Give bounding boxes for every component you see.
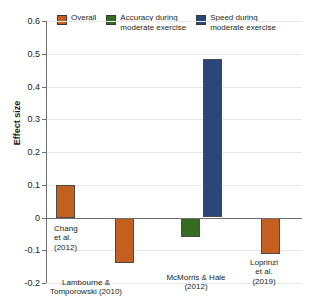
bar [56,185,75,218]
gridline [46,54,302,55]
y-tick-label: 0.2 [27,147,40,157]
y-axis-spine [46,21,47,283]
y-tick-mark [42,119,46,120]
plot-area: 0.60.50.40.30.20.10-0.1-0.2 Chang et al.… [46,21,302,283]
gridline [46,185,302,186]
y-tick-label: 0.1 [27,180,40,190]
bar-category-label: McMorris & Hale (2012) [146,273,246,292]
gridline [46,152,302,153]
bar-category-label: Loprinzi et al. (2019) [234,258,294,287]
y-tick-mark [42,54,46,55]
y-axis-title: Effect size [12,78,22,168]
bar [181,218,200,238]
bar-category-label: Chang et al. (2012) [54,224,102,253]
bar [261,218,280,254]
y-tick-mark [42,21,46,22]
bar [115,218,134,264]
y-tick-mark [42,152,46,153]
effect-size-bar-chart: Overall Accuracy during moderate exercis… [0,0,309,297]
gridline [46,21,302,22]
gridline [46,87,302,88]
y-tick-mark [42,218,46,219]
y-tick-mark [42,185,46,186]
y-tick-label: 0.5 [27,49,40,59]
y-tick-label: 0.4 [27,82,40,92]
y-tick-label: -0.1 [24,245,40,255]
y-tick-label: 0.3 [27,114,40,124]
y-tick-label: 0.6 [27,16,40,26]
bar [203,59,222,218]
y-tick-label: -0.2 [24,278,40,288]
y-tick-label: 0 [35,213,40,223]
gridline [46,119,302,120]
zero-baseline [46,218,302,219]
y-tick-mark [42,250,46,251]
bar-category-label: Lambourne & Tomporowski (2010) [40,278,132,297]
y-tick-mark [42,87,46,88]
